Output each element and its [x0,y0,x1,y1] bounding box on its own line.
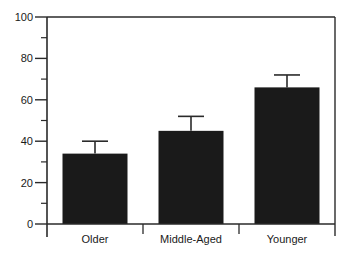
bar-group [159,116,224,224]
x-category-label: Older [82,233,109,245]
y-tick-label: 0 [27,218,33,230]
x-category-label: Younger [267,233,308,245]
y-tick-label: 40 [21,135,33,147]
bar [159,131,224,224]
bar-group [63,141,128,224]
y-tick-label: 80 [21,52,33,64]
bar [255,87,320,224]
y-tick-label: 60 [21,94,33,106]
x-axis: OlderMiddle-AgedYounger [47,224,335,245]
bar-group [255,75,320,224]
x-category-label: Middle-Aged [160,233,222,245]
y-tick-label: 100 [15,11,33,23]
y-tick-label: 20 [21,177,33,189]
bar-chart: 020406080100 OlderMiddle-AgedYounger [0,0,353,258]
y-axis: 020406080100 [15,11,47,237]
bars [63,75,320,224]
bar [63,154,128,224]
